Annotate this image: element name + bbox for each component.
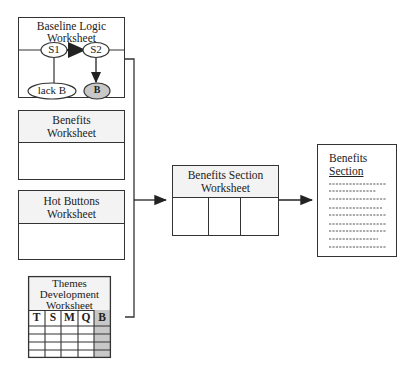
document-text-lines	[0, 0, 418, 370]
